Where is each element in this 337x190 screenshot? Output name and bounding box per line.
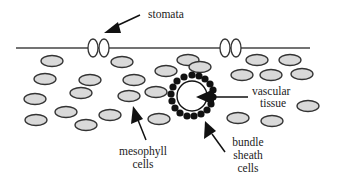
stomata-left <box>88 39 109 57</box>
vascular-label: vascular <box>252 85 290 97</box>
bundle-sheath-arrow <box>204 121 225 152</box>
stomata-label: stomata <box>148 8 184 20</box>
mesophyll-cells-label: cells <box>132 158 154 170</box>
stomata-right <box>220 39 241 57</box>
mesophyll-label: mesophyll <box>119 145 167 158</box>
bundle-cells-label: cells <box>237 162 259 174</box>
mesophyll-arrow <box>131 106 146 140</box>
leaf-cross-section-diagram: stomata vascular tissue mesophyll cells … <box>0 0 337 190</box>
bundle-label: bundle <box>232 136 263 148</box>
stomata-arrow <box>104 15 140 33</box>
tissue-label: tissue <box>260 97 286 109</box>
sheath-label: sheath <box>233 149 263 161</box>
